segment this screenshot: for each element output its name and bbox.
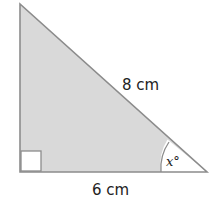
right-angle-marker: [21, 151, 41, 171]
base-label: 6 cm: [92, 181, 129, 199]
angle-label: x°: [166, 154, 180, 169]
hypotenuse-label: 8 cm: [122, 76, 159, 94]
triangle-diagram: 8 cm 6 cm x°: [0, 0, 220, 213]
